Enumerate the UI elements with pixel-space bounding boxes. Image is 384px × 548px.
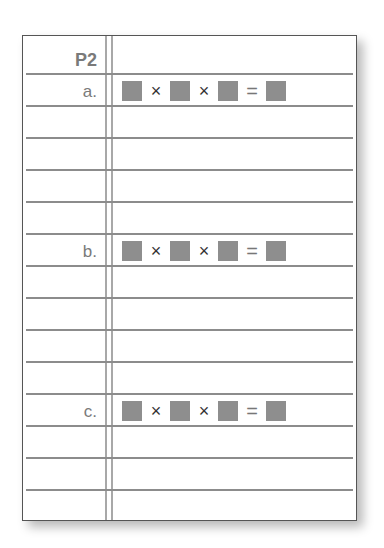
rule-line — [26, 169, 353, 171]
times-sign: × — [142, 401, 170, 421]
problem-a-expression: × × = — [122, 81, 286, 101]
header-label: P2 — [75, 50, 97, 70]
worksheet-card: P2 a. × × = b. × × = c. × × = — [22, 35, 357, 521]
rule-line — [26, 297, 353, 299]
blank-box[interactable] — [266, 81, 286, 101]
blank-box[interactable] — [170, 241, 190, 261]
rule-line — [26, 393, 353, 395]
margin-line-right — [111, 36, 113, 520]
problem-b-label: b. — [83, 242, 97, 262]
blank-box[interactable] — [266, 401, 286, 421]
times-sign: × — [142, 241, 170, 261]
problem-c-expression: × × = — [122, 401, 286, 421]
problem-b-expression: × × = — [122, 241, 286, 261]
blank-box[interactable] — [218, 401, 238, 421]
equals-sign: = — [238, 401, 266, 421]
times-sign: × — [190, 241, 218, 261]
equals-sign: = — [238, 241, 266, 261]
rule-line — [26, 73, 353, 75]
rule-line — [26, 233, 353, 235]
margin-line-left — [105, 36, 107, 520]
blank-box[interactable] — [218, 81, 238, 101]
problem-c-label: c. — [84, 402, 97, 422]
equals-sign: = — [238, 81, 266, 101]
blank-box[interactable] — [218, 241, 238, 261]
blank-box[interactable] — [122, 401, 142, 421]
blank-box[interactable] — [122, 241, 142, 261]
rule-line — [26, 425, 353, 427]
rule-line — [26, 201, 353, 203]
rule-line — [26, 489, 353, 491]
times-sign: × — [190, 401, 218, 421]
rule-line — [26, 329, 353, 331]
rule-line — [26, 105, 353, 107]
blank-box[interactable] — [122, 81, 142, 101]
blank-box[interactable] — [170, 401, 190, 421]
rule-line — [26, 361, 353, 363]
blank-box[interactable] — [266, 241, 286, 261]
times-sign: × — [190, 81, 218, 101]
rule-line — [26, 265, 353, 267]
problem-a-label: a. — [83, 82, 97, 102]
rule-line — [26, 457, 353, 459]
blank-box[interactable] — [170, 81, 190, 101]
rule-line — [26, 137, 353, 139]
times-sign: × — [142, 81, 170, 101]
